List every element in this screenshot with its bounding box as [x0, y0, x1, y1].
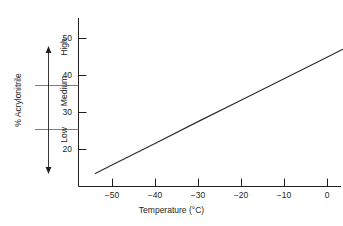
x-tick-label-minus50: −50 — [99, 191, 125, 200]
x-tick-label-minus10: −10 — [271, 191, 297, 200]
arrow-head-up-icon — [46, 46, 52, 53]
arrow-head-down-icon — [46, 167, 52, 174]
x-tick-label-minus40: −40 — [142, 191, 168, 200]
chart-figure: 50 40 30 20 −50 −40 −30 −20 −10 0 Temper… — [0, 0, 343, 226]
x-tick-label-minus20: −20 — [228, 191, 254, 200]
band-label-low: Low — [60, 100, 69, 170]
y-axis-title: % Acrylonitrile — [14, 30, 23, 170]
x-tick-label-minus30: −30 — [185, 191, 211, 200]
y-axis-ticks — [79, 39, 87, 150]
x-axis-title: Temperature (°C) — [0, 206, 343, 215]
x-tick-label-zero: 0 — [314, 191, 340, 200]
data-series-line — [95, 44, 343, 174]
x-axis-ticks — [113, 179, 328, 187]
